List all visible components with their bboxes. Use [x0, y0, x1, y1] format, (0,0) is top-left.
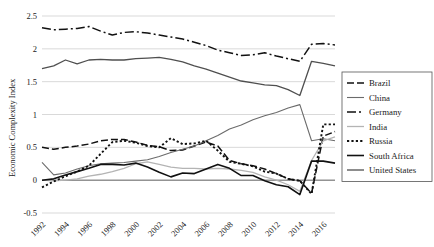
y-axis-title: Economic Complexity Index [7, 78, 17, 177]
y-tick-label: 0 [33, 175, 37, 185]
y-tick-label: 2.5 [26, 11, 37, 21]
legend-label-germany: Germany [369, 107, 402, 117]
y-tick-label: 1 [33, 110, 37, 120]
chart-page: -0.500.511.522.5 19921994199619982000200… [0, 0, 434, 247]
x-tick-label: 1998 [99, 219, 118, 238]
series-line-china [42, 105, 335, 175]
x-tick-label: 2008 [216, 219, 235, 238]
y-tick-label: -0.5 [24, 208, 37, 218]
legend-label-brazil: Brazil [369, 78, 391, 88]
svg-text:Economic Complexity Index: Economic Complexity Index [7, 78, 17, 177]
legend-label-russia: Russia [369, 136, 393, 146]
series-line-germany [42, 27, 335, 62]
x-tick-label: 2002 [146, 219, 165, 238]
x-tick-label: 1994 [52, 219, 72, 239]
y-tick-label: 0.5 [26, 142, 37, 152]
x-tick-labels: 1992199419961998200020022004200620082010… [28, 219, 328, 239]
x-tick-label: 1992 [28, 219, 47, 238]
x-tick-label: 2004 [169, 219, 189, 239]
x-tick-label: 2016 [310, 219, 329, 238]
data-series-group [42, 27, 335, 195]
legend-label-united-states: United States [369, 165, 417, 175]
series-line-united-states [42, 57, 335, 95]
legend: BrazilChinaGermanyIndiaRussiaSouth Afric… [342, 72, 432, 182]
series-line-russia [42, 124, 335, 194]
x-tick-label: 2010 [239, 219, 258, 238]
gridlines [42, 16, 335, 213]
x-tick-label: 2012 [263, 219, 282, 238]
legend-label-china: China [369, 93, 390, 103]
x-tick-label: 1996 [75, 219, 94, 238]
legend-label-india: India [369, 122, 387, 132]
x-tick-label: 2000 [122, 219, 141, 238]
y-tick-labels: -0.500.511.522.5 [24, 11, 37, 218]
legend-label-south-africa: South Africa [369, 151, 414, 161]
series-line-brazil [42, 132, 335, 194]
y-tick-label: 2 [33, 44, 37, 54]
x-tick-label: 2006 [192, 219, 211, 238]
economic-complexity-line-chart: -0.500.511.522.5 19921994199619982000200… [0, 0, 434, 247]
y-tick-label: 1.5 [26, 77, 37, 87]
x-tick-label: 2014 [286, 219, 306, 239]
